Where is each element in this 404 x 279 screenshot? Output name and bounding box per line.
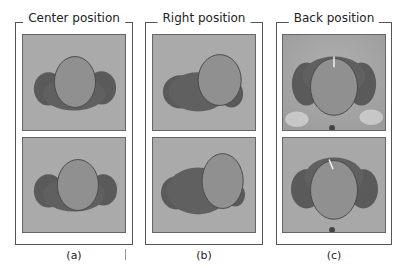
image-back-top bbox=[282, 34, 386, 131]
image-right-bottom bbox=[152, 137, 256, 233]
caption-b: (b) bbox=[196, 249, 212, 262]
caption-a: (a) bbox=[66, 249, 81, 262]
panel-title-back: Back position bbox=[289, 11, 379, 25]
caption-c: (c) bbox=[327, 249, 342, 262]
image-center-bottom bbox=[22, 137, 126, 233]
image-right-top bbox=[152, 34, 256, 131]
divider-mark bbox=[125, 249, 126, 260]
panel-title-right: Right position bbox=[158, 11, 251, 25]
panel-title-center: Center position bbox=[23, 11, 125, 25]
image-center-top bbox=[22, 34, 126, 131]
image-back-bottom bbox=[282, 137, 386, 233]
